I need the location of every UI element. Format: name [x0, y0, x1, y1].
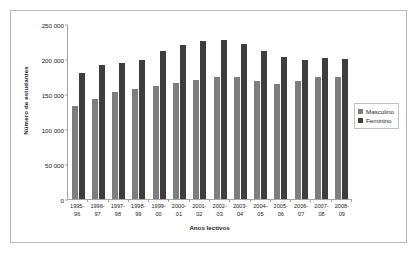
x-axis-tick-label-line: 00: [148, 211, 168, 219]
bar-group: [251, 25, 271, 199]
x-axis-tick-label: 1999-00: [148, 203, 168, 218]
x-axis-tick-label-line: 1999-: [148, 203, 168, 211]
bar-group: [291, 25, 311, 199]
bar-group: [169, 25, 189, 199]
bar-group: [149, 25, 169, 199]
x-axis-tick-mark: [168, 199, 169, 202]
x-axis-tick-label-line: 2006-: [291, 203, 311, 211]
chart-legend: MasculinoFeminino: [354, 103, 399, 129]
legend-swatch-icon: [358, 109, 363, 114]
y-axis-title: Número de estudantes: [22, 41, 29, 161]
x-axis-tick-label-line: 99: [128, 211, 148, 219]
bar-group: [271, 25, 291, 199]
bar-feminino-1999-00[interactable]: [160, 51, 166, 199]
x-axis-tick-label: 1995-96: [67, 203, 87, 218]
x-axis-tick-label-line: 1997-: [108, 203, 128, 211]
x-axis-tick-mark: [209, 199, 210, 202]
bar-masculino-1997-98[interactable]: [112, 92, 118, 199]
x-axis-tick-label-line: 2003-: [230, 203, 250, 211]
legend-swatch-icon: [358, 118, 363, 123]
x-axis-tick-labels: 1995-961996-971997-981998-991999-002000-…: [67, 203, 352, 218]
bar-masculino-2001-02[interactable]: [193, 80, 199, 199]
x-axis-tick-label-line: 2000-: [169, 203, 189, 211]
x-axis-tick-label: 1998-99: [128, 203, 148, 218]
x-axis-tick-label-line: 09: [332, 211, 352, 219]
bar-masculino-2006-07[interactable]: [295, 81, 301, 199]
x-axis-tick-label: 2007-08: [311, 203, 331, 218]
x-axis-tick-mark: [290, 199, 291, 202]
x-axis-tick-label-line: 04: [230, 211, 250, 219]
x-axis-tick-label: 1997-98: [108, 203, 128, 218]
x-axis-tick-label: 2001-02: [189, 203, 209, 218]
bar-feminino-2001-02[interactable]: [200, 41, 206, 199]
x-axis-title: Anos lectivos: [67, 224, 352, 231]
y-axis-tick-mark: [65, 200, 68, 201]
x-axis-tick-label: 2003-04: [230, 203, 250, 218]
x-axis-tick-label-line: 1996-: [87, 203, 107, 211]
bar-masculino-1996-97[interactable]: [92, 99, 98, 199]
bar-feminino-2003-04[interactable]: [241, 44, 247, 199]
legend-item-label: Feminino: [366, 117, 391, 124]
x-axis-tick-mark: [310, 199, 311, 202]
x-axis-tick-label-line: 06: [271, 211, 291, 219]
x-axis-tick-label-line: 2005-: [271, 203, 291, 211]
x-axis-tick-label: 2008-09: [332, 203, 352, 218]
x-axis-tick-mark: [128, 199, 129, 202]
bar-group: [88, 25, 108, 199]
bar-feminino-1996-97[interactable]: [99, 65, 105, 199]
x-axis-tick-label-line: 05: [250, 211, 270, 219]
bar-group: [109, 25, 129, 199]
bar-masculino-1999-00[interactable]: [153, 86, 159, 199]
x-axis-tick-mark: [331, 199, 332, 202]
bar-feminino-1995-96[interactable]: [79, 73, 85, 199]
x-axis-tick-label-line: 01: [169, 211, 189, 219]
x-axis-tick-label-line: 2004-: [250, 203, 270, 211]
bar-group: [210, 25, 230, 199]
bar-feminino-2002-03[interactable]: [221, 40, 227, 199]
x-axis-tick-label-line: 2008-: [332, 203, 352, 211]
x-axis-tick-mark: [108, 199, 109, 202]
x-axis-tick-mark: [229, 199, 230, 202]
x-axis-tick-label: 2005-06: [271, 203, 291, 218]
bar-masculino-1995-96[interactable]: [72, 106, 78, 199]
bar-masculino-2000-01[interactable]: [173, 83, 179, 199]
bar-feminino-2006-07[interactable]: [302, 60, 308, 199]
bar-feminino-2004-05[interactable]: [261, 51, 267, 199]
x-axis-tick-label-line: 08: [311, 211, 331, 219]
x-axis-tick-label: 1996-97: [87, 203, 107, 218]
x-axis-tick-label-line: 97: [87, 211, 107, 219]
bar-masculino-2002-03[interactable]: [214, 77, 220, 199]
x-axis-tick-mark: [189, 199, 190, 202]
bar-masculino-1998-99[interactable]: [132, 89, 138, 199]
bar-masculino-2004-05[interactable]: [254, 81, 260, 199]
bar-masculino-2008-09[interactable]: [335, 77, 341, 199]
bar-series-container: [68, 25, 352, 199]
bar-masculino-2005-06[interactable]: [274, 84, 280, 199]
x-axis-tick-label-line: 98: [108, 211, 128, 219]
x-axis-tick-label: 2006-07: [291, 203, 311, 218]
x-axis-tick-label-line: 07: [291, 211, 311, 219]
x-axis-tick-mark: [87, 199, 88, 202]
bar-group: [190, 25, 210, 199]
x-axis-tick-label: 2004-05: [250, 203, 270, 218]
legend-item-feminino[interactable]: Feminino: [358, 116, 394, 125]
bar-feminino-1998-99[interactable]: [139, 60, 145, 199]
x-axis-tick-label-line: 03: [210, 211, 230, 219]
x-axis-tick-label-line: 2002-: [210, 203, 230, 211]
bar-masculino-2007-08[interactable]: [315, 77, 321, 200]
x-axis-tick-mark: [270, 199, 271, 202]
bar-masculino-2003-04[interactable]: [234, 77, 240, 199]
bar-feminino-2000-01[interactable]: [180, 45, 186, 199]
bar-feminino-2007-08[interactable]: [322, 58, 328, 199]
bar-feminino-2005-06[interactable]: [281, 57, 287, 199]
x-axis-tick-mark: [351, 199, 352, 202]
bar-feminino-2008-09[interactable]: [342, 59, 348, 199]
bar-feminino-1997-98[interactable]: [119, 63, 125, 200]
x-axis-tick-label-line: 1998-: [128, 203, 148, 211]
x-axis-tick-mark: [250, 199, 251, 202]
legend-item-masculino[interactable]: Masculino: [358, 107, 394, 116]
bar-group: [129, 25, 149, 199]
bar-group: [311, 25, 331, 199]
x-axis-tick-label-line: 1995-: [67, 203, 87, 211]
x-axis-tick-mark: [148, 199, 149, 202]
